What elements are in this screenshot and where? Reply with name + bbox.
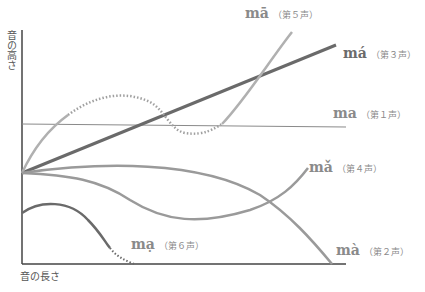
tone-3-syllable: má bbox=[343, 45, 367, 61]
tone-3-number: （第３声） bbox=[371, 50, 416, 60]
tone-2-label: mà（第２声） bbox=[336, 240, 409, 259]
tone-6-label: mạ（第６声） bbox=[131, 234, 204, 253]
tone-6-curve bbox=[22, 204, 110, 248]
tone-5-label: mā（第５声） bbox=[245, 3, 318, 22]
tone-4-number: （第４声） bbox=[337, 164, 382, 174]
x-axis-label: 音の長さ bbox=[20, 268, 60, 283]
tone-1-curve bbox=[22, 124, 346, 127]
tone-1-label: ma（第１声） bbox=[333, 103, 406, 122]
tone-4-curve bbox=[22, 168, 308, 219]
tone-6-number: （第６声） bbox=[159, 241, 204, 251]
y-axis-label: 音の高さ bbox=[4, 30, 16, 70]
tone-2-syllable: mà bbox=[336, 242, 360, 258]
tone-6-syllable: mạ bbox=[131, 236, 155, 252]
tone-1-syllable: ma bbox=[333, 105, 357, 121]
tone-5-curve-end bbox=[222, 32, 292, 124]
tone-2-number: （第２声） bbox=[364, 247, 409, 257]
tone-1-number: （第１声） bbox=[361, 110, 406, 120]
tone-5-number: （第５声） bbox=[273, 10, 318, 20]
tone-4-label: mǎ（第４声） bbox=[309, 157, 382, 176]
tone-4-syllable: mǎ bbox=[309, 159, 333, 175]
tone-5-syllable: mā bbox=[245, 5, 269, 21]
tone-3-curve bbox=[22, 45, 336, 173]
tone-3-label: má（第３声） bbox=[343, 43, 416, 62]
